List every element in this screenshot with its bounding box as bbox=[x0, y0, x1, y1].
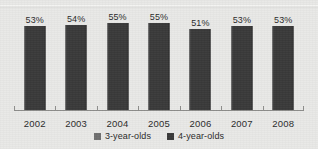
top-divider-line-secondary bbox=[0, 7, 318, 8]
bar bbox=[24, 26, 45, 110]
bar-group: 51% bbox=[180, 12, 221, 110]
bar bbox=[231, 26, 252, 110]
plot-area: 53%54%55%55%51%53%53% bbox=[14, 12, 304, 110]
x-axis-tick bbox=[221, 106, 222, 111]
bar bbox=[273, 26, 294, 110]
bar-group: 54% bbox=[55, 12, 96, 110]
bar-value-label: 53% bbox=[221, 15, 262, 25]
x-axis-label-2007: 2007 bbox=[221, 117, 262, 130]
bar-value-label: 55% bbox=[97, 12, 138, 22]
legend-label: 4-year-olds bbox=[178, 131, 224, 141]
x-axis bbox=[14, 110, 304, 117]
x-axis-label-2004: 2004 bbox=[97, 117, 138, 130]
x-axis-label-2003: 2003 bbox=[55, 117, 96, 130]
x-axis-tick bbox=[303, 106, 304, 111]
legend-label: 3-year-olds bbox=[105, 131, 151, 141]
x-axis-tick bbox=[263, 106, 264, 111]
bar-value-label: 53% bbox=[263, 15, 304, 25]
legend-item-4-year-olds[interactable]: 4-year-olds bbox=[167, 131, 224, 141]
x-axis-label-2008: 2008 bbox=[263, 117, 304, 130]
bar-value-label: 53% bbox=[14, 15, 55, 25]
x-axis-label-2002: 2002 bbox=[14, 117, 55, 130]
bar bbox=[107, 23, 128, 110]
bar-group: 55% bbox=[138, 12, 179, 110]
x-axis-tick bbox=[55, 106, 56, 111]
chart-legend: 3-year-olds4-year-olds bbox=[0, 131, 318, 141]
x-axis-tick bbox=[180, 106, 181, 111]
x-axis-tick bbox=[14, 106, 15, 111]
x-axis-label-2006: 2006 bbox=[180, 117, 221, 130]
legend-swatch-icon bbox=[167, 133, 174, 140]
x-axis-tick bbox=[138, 106, 139, 111]
bar-chart-figure: 53%54%55%55%51%53%53% 200220032004200520… bbox=[0, 0, 318, 149]
x-axis-line bbox=[14, 110, 304, 111]
bar bbox=[148, 23, 169, 110]
top-divider-line bbox=[0, 5, 318, 6]
bar-group: 53% bbox=[221, 12, 262, 110]
legend-item-3-year-olds[interactable]: 3-year-olds bbox=[94, 131, 151, 141]
bar bbox=[190, 29, 211, 110]
bar-value-label: 51% bbox=[180, 18, 221, 28]
bar-value-label: 55% bbox=[138, 12, 179, 22]
bar-group: 53% bbox=[14, 12, 55, 110]
x-axis-category-labels: 2002200320042005200620072008 bbox=[14, 117, 304, 131]
legend-swatch-icon bbox=[94, 133, 101, 140]
bar-value-label: 54% bbox=[55, 14, 96, 24]
x-axis-tick bbox=[97, 106, 98, 111]
x-axis-label-2005: 2005 bbox=[138, 117, 179, 130]
bar bbox=[66, 25, 87, 110]
bar-group: 53% bbox=[263, 12, 304, 110]
bar-group: 55% bbox=[97, 12, 138, 110]
